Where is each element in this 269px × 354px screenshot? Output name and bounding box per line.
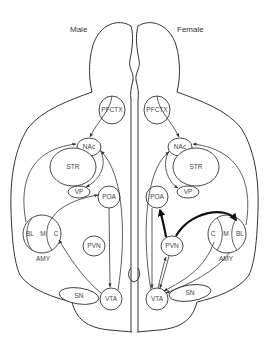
female-poa-label: POA xyxy=(150,193,164,200)
male-nac-label: NAc xyxy=(83,143,96,150)
female-title: Female xyxy=(177,25,204,34)
female-amy-label: AMY xyxy=(219,255,234,262)
male-amy-label: AMY xyxy=(36,255,51,262)
male-pfctx-label: PFCTX xyxy=(101,106,123,113)
female-edge-pvn-poa-bold xyxy=(160,210,166,237)
female-bl-label: BL xyxy=(236,230,244,237)
female-str-label: STR xyxy=(190,163,203,170)
male-hemisphere: PFCTX NAc STR VP POA BL M C AMY PVN SN V… xyxy=(23,96,125,310)
female-pvn-label: PVN xyxy=(165,242,179,249)
male-c-label: C xyxy=(54,230,59,237)
male-str-label: STR xyxy=(67,163,80,170)
brain-circuit-diagram: Male Female PFCTX NAc STR VP POA BL M C … xyxy=(0,0,269,354)
female-nac-label: NAc xyxy=(174,143,187,150)
male-sn-label: SN xyxy=(74,292,83,299)
male-edge-poa-vta xyxy=(109,208,110,287)
female-vp-label: VP xyxy=(184,188,193,195)
male-pvn-label: PVN xyxy=(87,242,101,249)
male-vp-label: VP xyxy=(75,188,84,195)
male-m-label: M xyxy=(40,230,45,237)
male-bl-label: BL xyxy=(26,230,34,237)
brain-outline xyxy=(11,23,258,332)
female-pfctx-label: PFCTX xyxy=(146,106,168,113)
male-edge-c-poa xyxy=(52,195,98,218)
female-sn-label: SN xyxy=(185,289,194,296)
female-c-label: C xyxy=(211,230,216,237)
female-vta-label: VTA xyxy=(151,295,164,302)
male-poa-label: POA xyxy=(102,193,116,200)
male-title: Male xyxy=(70,25,88,34)
male-edge-vta-nac xyxy=(101,151,122,290)
female-m-label: M xyxy=(223,230,228,237)
male-vta-label: VTA xyxy=(105,295,118,302)
female-hemisphere: PFCTX NAc STR VP POA C M BL AMY PVN SN V… xyxy=(144,96,248,310)
